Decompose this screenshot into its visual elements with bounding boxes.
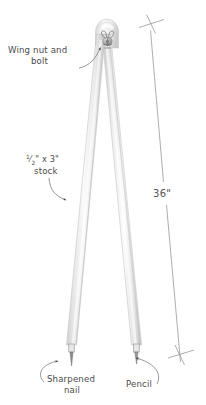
right-leg-shadow-edge xyxy=(109,41,141,344)
left-leg-highlight xyxy=(72,40,103,344)
diagram-canvas: 36" Wing nut and bolt 1⁄2" x 3" stock Sh… xyxy=(0,0,206,405)
stock-size-label: 1⁄2" x 3" stock xyxy=(26,154,66,200)
dimension-tick-bottom xyxy=(168,345,194,365)
wing-nut-label-line1: Wing nut and xyxy=(8,45,67,55)
nail-point xyxy=(70,352,73,366)
bolt-center xyxy=(106,40,109,43)
sharpened-nail-label: Sharpened nail xyxy=(40,361,95,395)
pencil-tip xyxy=(134,344,140,364)
nail-tip xyxy=(69,344,74,366)
stock-leader-line xyxy=(49,178,66,200)
nail-label-line1: Sharpened xyxy=(47,374,95,384)
dimension-value: 36" xyxy=(153,188,171,199)
wing-nut-label-line2: bolt xyxy=(31,56,49,66)
nail-ferrule xyxy=(69,344,74,352)
pencil-label-line1: Pencil xyxy=(126,379,152,389)
left-leg xyxy=(67,34,106,345)
pencil-label: Pencil xyxy=(126,358,159,389)
dimension-line-upper xyxy=(151,31,164,183)
left-leg-shadow-edge xyxy=(75,42,105,344)
dimension-tick-top xyxy=(139,15,164,34)
wing-nut-and-bolt-label: Wing nut and bolt xyxy=(8,45,101,68)
right-leg-highlight xyxy=(105,41,137,344)
overall-length-dimension: 36" xyxy=(139,15,194,366)
pencil-ferrule xyxy=(134,344,140,352)
dimension-line-lower xyxy=(167,205,181,362)
stock-dims-rest: " x 3" xyxy=(35,154,59,164)
stock-label-line1: 1⁄2" x 3" xyxy=(26,154,59,166)
right-leg xyxy=(102,34,142,345)
compass-diagram: 36" Wing nut and bolt 1⁄2" x 3" stock Sh… xyxy=(0,0,206,405)
nail-label-line2: nail xyxy=(64,385,80,395)
stock-label-line2: stock xyxy=(34,166,58,176)
